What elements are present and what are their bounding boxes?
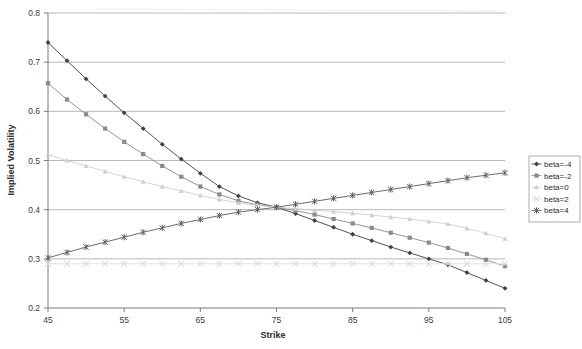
x-axis-title: Strike — [260, 330, 285, 340]
y-tick-label: 0.8 — [28, 8, 40, 18]
legend-item-label: beta=-4 — [544, 160, 572, 169]
x-tick-label: 105 — [498, 315, 512, 325]
data-point-marker — [46, 81, 50, 85]
x-tick-label: 45 — [43, 315, 53, 325]
data-point-marker — [217, 192, 221, 196]
data-point-marker — [351, 221, 355, 225]
x-tick-label: 75 — [272, 315, 282, 325]
data-point-marker — [484, 258, 488, 262]
data-point-marker — [141, 152, 145, 156]
y-tick-label: 0.5 — [28, 156, 40, 166]
data-point-marker — [179, 175, 183, 179]
x-tick-label: 55 — [119, 315, 129, 325]
data-point-marker — [427, 241, 431, 245]
y-tick-label: 0.2 — [28, 303, 40, 313]
data-point-marker — [65, 97, 69, 101]
data-point-marker — [198, 184, 202, 188]
y-axis-title: Implied Volatility — [6, 125, 16, 196]
legend-item-label: beta=2 — [544, 195, 569, 204]
data-point-marker — [534, 174, 538, 178]
data-point-marker — [122, 140, 126, 144]
chart-container: 455565758595105 0.20.30.40.50.60.70.8 St… — [0, 0, 582, 349]
data-point-marker — [370, 226, 374, 230]
legend-item-label: beta=-2 — [544, 172, 572, 181]
data-point-marker — [160, 164, 164, 168]
legend-item-label: beta=0 — [544, 183, 569, 192]
x-tick-label: 85 — [348, 315, 358, 325]
chart-legend: beta=-4beta=-2beta=0beta=2beta=4 — [529, 156, 580, 222]
data-point-marker — [465, 252, 469, 256]
y-tick-label: 0.3 — [28, 254, 40, 264]
y-tick-label: 0.7 — [28, 57, 40, 67]
data-point-marker — [312, 212, 316, 216]
legend-item-label: beta=4 — [544, 206, 569, 215]
implied-volatility-line-chart: 455565758595105 0.20.30.40.50.60.70.8 St… — [0, 0, 582, 349]
data-point-marker — [103, 126, 107, 130]
x-tick-label: 65 — [196, 315, 206, 325]
data-point-marker — [332, 217, 336, 221]
y-tick-label: 0.4 — [28, 205, 40, 215]
data-point-marker — [446, 246, 450, 250]
data-point-marker — [389, 231, 393, 235]
x-tick-label: 95 — [424, 315, 434, 325]
data-point-marker — [408, 236, 412, 240]
data-point-marker — [84, 112, 88, 116]
y-tick-label: 0.6 — [28, 106, 40, 116]
